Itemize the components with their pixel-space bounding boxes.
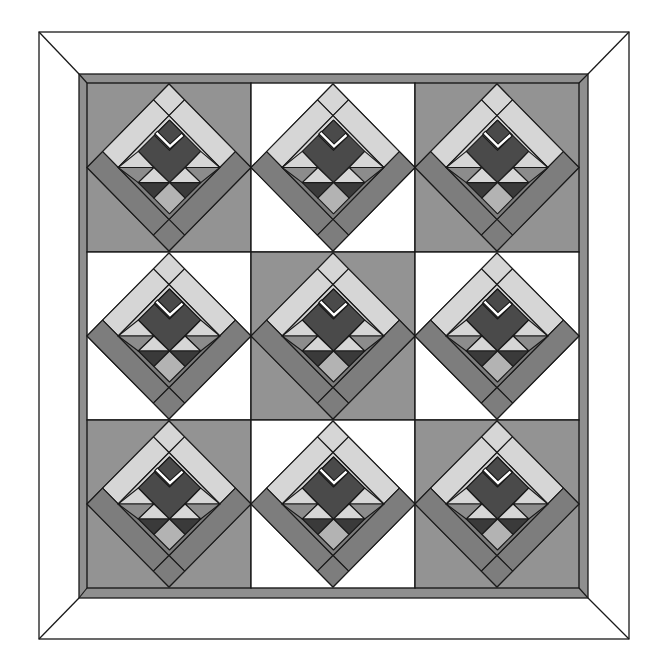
quilt-block-r3c1	[87, 420, 251, 588]
quilt-block-r1c2	[251, 83, 415, 252]
quilt-block-r2c3	[415, 252, 579, 420]
quilt-block-r3c2	[251, 420, 415, 588]
quilt-block-r2c2	[251, 252, 415, 420]
quilt-canvas	[0, 0, 657, 659]
quilt-block-r1c1	[87, 83, 251, 252]
quilt-block-r3c3	[415, 420, 579, 588]
quilt-block-r1c3	[415, 83, 579, 252]
quilt-block-r2c1	[87, 252, 251, 420]
quilt-blocks	[87, 83, 579, 588]
